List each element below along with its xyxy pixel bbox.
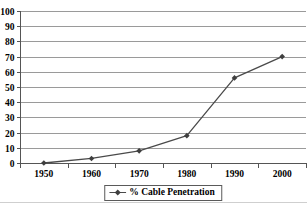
y-tick-label: 10	[5, 144, 15, 154]
y-tick-label: 90	[5, 22, 15, 32]
series-marker-icon	[109, 188, 126, 197]
x-tick-label: 1970	[130, 169, 149, 179]
y-tick-label: 0	[10, 159, 15, 169]
cable-penetration-chart: 0102030405060708090100195019601970198019…	[0, 0, 307, 203]
y-tick-label: 40	[5, 98, 15, 108]
chart-plot-area: 0102030405060708090100195019601970198019…	[0, 0, 307, 203]
x-tick-label: 1990	[225, 169, 244, 179]
y-tick-label: 20	[5, 129, 15, 139]
chart-legend: % Cable Penetration	[104, 185, 222, 201]
y-tick-label: 70	[5, 53, 15, 63]
x-tick-label: 1960	[82, 169, 101, 179]
data-point-marker	[89, 156, 95, 162]
legend-label: % Cable Penetration	[129, 187, 215, 198]
y-tick-label: 80	[5, 37, 15, 47]
y-tick-label: 30	[5, 113, 15, 123]
x-tick-label: 1980	[177, 169, 196, 179]
x-tick-label: 2000	[273, 169, 292, 179]
y-tick-label: 60	[5, 68, 15, 78]
data-point-marker	[41, 160, 47, 166]
y-tick-label: 100	[0, 7, 15, 17]
x-tick-label: 1950	[34, 169, 53, 179]
data-point-marker	[279, 54, 285, 60]
legend-diamond-marker	[115, 190, 121, 196]
y-tick-label: 50	[5, 83, 15, 93]
